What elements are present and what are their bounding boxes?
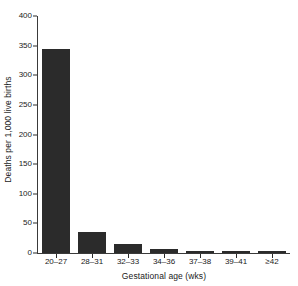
y-axis-tick-label: 100 [19, 190, 32, 198]
bar[interactable] [222, 251, 250, 253]
bar-slot [218, 16, 254, 253]
y-axis-tick-label: 50 [23, 219, 32, 227]
x-axis-title: Gestational age (wks) [38, 271, 290, 281]
bar[interactable] [186, 251, 214, 253]
x-axis-tick-label: 34–36 [153, 258, 175, 266]
bar-slot [74, 16, 110, 253]
bar-chart-figure: Deaths per 1,000 live births 05010015020… [0, 0, 298, 286]
bar-slot [38, 16, 74, 253]
x-axis-tick-labels: 20–2728–3132–3334–3637–3839–41≥42 [38, 258, 290, 270]
x-axis-tick-label: ≥42 [265, 258, 278, 266]
y-axis-tick-label: 300 [19, 71, 32, 79]
y-axis-tick-label: 250 [19, 101, 32, 109]
x-axis-tick-label: 20–27 [45, 258, 67, 266]
bar[interactable] [258, 251, 286, 253]
bar-slot [110, 16, 146, 253]
bar-slot [182, 16, 218, 253]
bar-slot [146, 16, 182, 253]
x-axis-tick-label: 32–33 [117, 258, 139, 266]
x-axis-tick-label: 39–41 [225, 258, 247, 266]
y-axis-tick-label: 150 [19, 160, 32, 168]
bar-slot [254, 16, 290, 253]
bar[interactable] [42, 49, 70, 253]
x-axis-tick-label: 28–31 [81, 258, 103, 266]
y-axis-tick-label: 0 [28, 249, 32, 257]
x-axis-tick-label: 37–38 [189, 258, 211, 266]
y-axis-tick-label: 400 [19, 12, 32, 20]
y-axis-tick-labels: 050100150200250300350400 [12, 12, 32, 254]
y-axis-tick-label: 200 [19, 131, 32, 139]
bar[interactable] [150, 249, 178, 253]
y-axis-tick-label: 350 [19, 42, 32, 50]
plot-area [38, 16, 290, 253]
bar[interactable] [114, 244, 142, 253]
bar[interactable] [78, 232, 106, 253]
